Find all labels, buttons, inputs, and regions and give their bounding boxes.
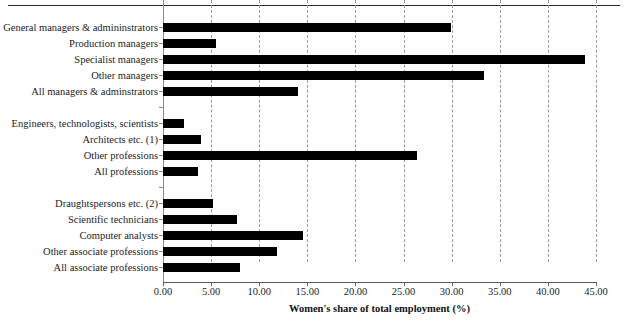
x-axis-title: Women's share of total employment (%) — [163, 303, 596, 314]
bar — [163, 119, 184, 128]
category-label: Computer analysts — [80, 228, 158, 243]
bar — [163, 71, 484, 80]
bar — [163, 151, 417, 160]
bar-row: All associate professions — [0, 260, 626, 275]
bar — [163, 23, 451, 32]
group-separator — [0, 100, 626, 115]
category-label: Specialist managers — [74, 52, 158, 67]
category-label: Production managers — [69, 36, 158, 51]
bar-row: General managers & admininstrators — [0, 20, 626, 35]
bar-row: Architects etc. (1) — [0, 132, 626, 147]
bar-row: All professions — [0, 164, 626, 179]
category-label: General managers & admininstrators — [3, 20, 158, 35]
group-separator — [0, 180, 626, 195]
bar-row: All managers & adminstrators — [0, 84, 626, 99]
category-label: Other associate professions — [43, 244, 158, 259]
category-label: Other professions — [84, 148, 158, 163]
bar-row: Production managers — [0, 36, 626, 51]
bar — [163, 263, 240, 272]
bar — [163, 55, 585, 64]
bar-row: Specialist managers — [0, 52, 626, 67]
x-axis-line — [163, 282, 596, 283]
bar — [163, 231, 303, 240]
cropped-header-text — [18, 0, 608, 2]
bar-row: Engineers, technologists, scientists — [0, 116, 626, 131]
bar — [163, 167, 198, 176]
category-label: Scientific technicians — [68, 212, 158, 227]
bar — [163, 135, 201, 144]
bar — [163, 39, 216, 48]
category-label: All managers & adminstrators — [31, 84, 158, 99]
bar-row: Other professions — [0, 148, 626, 163]
bar — [163, 247, 277, 256]
chart-figure: General managers & admininstratorsProduc… — [0, 0, 626, 330]
bar — [163, 215, 237, 224]
bar — [163, 87, 298, 96]
category-label: Architects etc. (1) — [82, 132, 158, 147]
bar-row: Computer analysts — [0, 228, 626, 243]
category-label: All professions — [94, 164, 158, 179]
category-label: Draughtspersons etc. (2) — [55, 196, 158, 211]
bar-row: Draughtspersons etc. (2) — [0, 196, 626, 211]
bar — [163, 199, 213, 208]
header-rule — [8, 5, 620, 6]
bar-row: Scientific technicians — [0, 212, 626, 227]
y-tick-mark — [159, 107, 164, 108]
category-label: All associate professions — [54, 260, 158, 275]
category-label: Other managers — [91, 68, 158, 83]
bar-row: Other associate professions — [0, 244, 626, 259]
y-tick-mark — [159, 187, 164, 188]
bar-row: Other managers — [0, 68, 626, 83]
category-label: Engineers, technologists, scientists — [12, 116, 158, 131]
x-tick-label: 45.00 — [566, 286, 626, 297]
